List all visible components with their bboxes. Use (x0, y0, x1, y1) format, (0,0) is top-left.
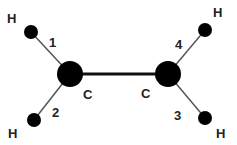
label-c-left: C (83, 88, 92, 101)
hydrogen-atom-top-right (198, 23, 212, 37)
label-h-top-left: H (7, 12, 16, 25)
label-h-bottom-left: H (8, 127, 17, 140)
carbon-atom-right (155, 61, 181, 87)
hydrogen-atom-top-left (24, 25, 38, 39)
carbon-atom-left (57, 61, 83, 87)
label-h-bottom-right: H (216, 127, 225, 140)
label-bond-4: 4 (175, 38, 182, 51)
label-h-top-right: H (213, 6, 222, 19)
label-bond-2: 2 (52, 106, 59, 119)
molecule-graphic (0, 0, 237, 145)
hydrogen-atom-bottom-left (27, 113, 41, 127)
label-bond-1: 1 (49, 36, 56, 49)
ethylene-diagram: H 1 C 2 H H 4 C 3 H (0, 0, 237, 145)
hydrogen-atom-bottom-right (198, 111, 212, 125)
label-bond-3: 3 (174, 109, 181, 122)
label-c-right: C (141, 87, 150, 100)
